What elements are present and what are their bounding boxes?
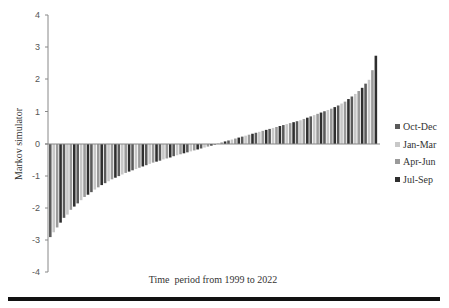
bar (344, 102, 347, 144)
bar (166, 144, 169, 158)
bar (354, 94, 357, 144)
bar (361, 88, 364, 144)
bar (251, 134, 254, 144)
bar (330, 109, 333, 144)
bar (327, 110, 330, 144)
y-tick: 4 (35, 10, 48, 20)
y-tick: -3 (32, 235, 48, 245)
y-tick: -4 (32, 267, 48, 277)
bar (364, 84, 367, 144)
bar (200, 144, 203, 148)
bar (63, 144, 66, 218)
bar (261, 131, 264, 144)
bar (268, 129, 271, 144)
y-tick-label: -4 (32, 267, 40, 277)
bar (73, 144, 76, 207)
bar (357, 91, 360, 144)
legend-swatch-icon (395, 142, 400, 147)
bar (241, 137, 244, 144)
markov-simulator-chart: 4 3 2 1 0 -1 -2 -3 -4 Markov simulator T… (0, 0, 449, 308)
bar (272, 128, 275, 144)
legend-swatch-icon (395, 177, 400, 182)
bar (121, 144, 124, 175)
bar (118, 144, 121, 176)
bar (76, 144, 79, 203)
y-tick: -1 (32, 171, 48, 181)
bar (296, 121, 299, 144)
bar (172, 144, 175, 156)
bar (306, 118, 309, 144)
bar (56, 144, 59, 227)
bar (313, 115, 316, 144)
bar (337, 105, 340, 144)
bar (375, 56, 378, 144)
legend-label: Jan-Mar (403, 139, 437, 150)
bar (248, 135, 251, 144)
bar (333, 107, 336, 144)
legend-swatch-icon (395, 159, 400, 164)
bar (52, 144, 55, 232)
bar (162, 144, 165, 159)
y-tick-label: 4 (35, 10, 40, 20)
y-tick: 0 (35, 139, 48, 149)
legend-item-oct-dec: Oct-Dec (395, 121, 437, 132)
bar (148, 144, 151, 164)
bar (104, 144, 107, 183)
bar (131, 144, 134, 170)
y-tick-label: 2 (35, 74, 40, 84)
legend-label: Oct-Dec (403, 121, 437, 132)
bar (196, 144, 199, 149)
y-tick: 1 (35, 107, 48, 117)
y-tick-label: -2 (32, 203, 40, 213)
bar (94, 144, 97, 190)
bar (347, 99, 350, 144)
y-tick-label: 3 (35, 42, 40, 52)
legend-label: Jul-Sep (403, 174, 433, 185)
bar (237, 138, 240, 144)
bar (87, 144, 90, 195)
bar (114, 144, 117, 178)
x-axis-title: Time period from 1999 to 2022 (149, 274, 278, 285)
legend-item-jan-mar: Jan-Mar (395, 139, 437, 150)
bar (111, 144, 114, 179)
bar (351, 96, 354, 144)
bar (66, 144, 69, 215)
bar (97, 144, 100, 187)
bar (49, 144, 52, 237)
bar (320, 113, 323, 144)
bar (275, 127, 278, 144)
legend-swatch-icon (395, 124, 400, 129)
bar (244, 136, 247, 144)
bar-series (49, 56, 377, 237)
bar (231, 140, 234, 144)
bar (258, 132, 261, 144)
y-tick-label: 0 (35, 139, 40, 149)
bar (368, 80, 371, 144)
bar (316, 114, 319, 144)
bar (142, 144, 145, 166)
y-tick: 3 (35, 42, 48, 52)
bar (70, 144, 73, 210)
y-axis-ticks: 4 3 2 1 0 -1 -2 -3 -4 (32, 10, 48, 277)
bar (255, 133, 258, 144)
bar (80, 144, 83, 200)
bar (179, 144, 182, 154)
legend-label: Apr-Jun (403, 156, 436, 167)
bar (285, 124, 288, 144)
bar (292, 122, 295, 144)
bar (234, 139, 237, 144)
bar (159, 144, 162, 161)
bar (289, 123, 292, 144)
bar (107, 144, 110, 181)
bar (309, 116, 312, 144)
legend-item-apr-jun: Apr-Jun (395, 156, 436, 167)
bar (227, 140, 230, 144)
bar (186, 144, 189, 152)
bar (128, 144, 131, 172)
bar (282, 125, 285, 144)
bar (135, 144, 138, 169)
bar (303, 119, 306, 144)
bar (100, 144, 103, 185)
bar (299, 120, 302, 144)
bar (145, 144, 148, 165)
